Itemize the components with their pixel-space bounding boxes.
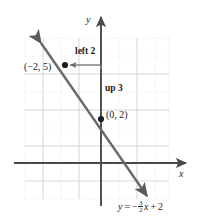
y-axis-label: y [86, 15, 90, 25]
equation-equals: = [124, 201, 130, 212]
slope-numerator: 3 [138, 200, 143, 207]
slope-denominator: 2 [138, 206, 143, 214]
plotted-line [41, 43, 147, 196]
equation-sign: − [132, 201, 138, 212]
left-2-label: left 2 [75, 47, 95, 57]
equation-plus: + [150, 201, 156, 212]
up-3-label: up 3 [105, 84, 123, 94]
equation-lhs: y [118, 201, 122, 212]
point-marker-upper [62, 62, 68, 68]
point-label-upper: (−2, 5) [24, 62, 51, 72]
point-marker-intercept [98, 116, 104, 122]
equation-variable: x [144, 201, 148, 212]
graph-canvas [0, 0, 200, 221]
x-axis-label: x [179, 169, 183, 179]
equation-intercept: 2 [158, 201, 163, 212]
slope-fraction: 32 [138, 200, 143, 215]
graph-figure: y x (−2, 5) (0, 2) left 2 up 3 y=−32x+2 [0, 0, 200, 221]
point-label-intercept: (0, 2) [106, 110, 128, 120]
equation-label: y=−32x+2 [118, 200, 163, 215]
